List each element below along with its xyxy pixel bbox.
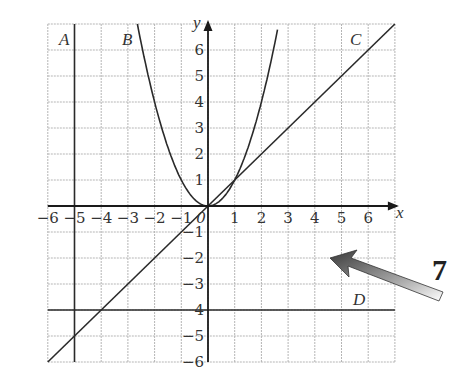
- x-tick-label: −4: [90, 209, 112, 227]
- plotted-lines: [48, 24, 395, 362]
- x-tick-label: 3: [283, 209, 293, 227]
- y-tick-label: −2: [182, 249, 204, 267]
- y-tick-label: −3: [182, 275, 204, 293]
- y-tick-label: −1: [182, 223, 204, 241]
- y-tick-label: 3: [194, 119, 204, 137]
- y-tick-label: 2: [194, 145, 204, 163]
- pointer-arrow-icon: [330, 250, 443, 301]
- label-line-a: A: [58, 30, 70, 49]
- y-tick-label: 1: [194, 171, 204, 189]
- y-tick-label: 4: [194, 93, 204, 111]
- x-tick-label: 1: [230, 209, 240, 227]
- label-line-c: C: [350, 30, 362, 49]
- y-axis-arrow-icon: [204, 20, 213, 31]
- y-tick-label: 4: [194, 301, 204, 319]
- series-c: [48, 24, 395, 362]
- y-tick-label: −5: [182, 327, 204, 345]
- y-axis-label: y: [191, 13, 201, 32]
- x-tick-label: −6: [37, 209, 59, 227]
- y-tick-label: −6: [182, 353, 204, 371]
- x-tick-label: −2: [144, 209, 166, 227]
- x-tick-label: 2: [257, 209, 267, 227]
- x-tick-label: −3: [117, 209, 139, 227]
- x-axis-label: x: [395, 203, 404, 222]
- x-tick-label: 6: [363, 209, 373, 227]
- x-tick-label: 4: [310, 209, 320, 227]
- x-tick-label: 5: [337, 209, 347, 227]
- x-tick-label: −5: [63, 209, 85, 227]
- question-number: 7: [432, 253, 447, 286]
- label-line-d: D: [352, 290, 366, 309]
- y-tick-label: 5: [194, 67, 204, 85]
- coordinate-graph: −6−5−4−3−2−10123456−6−54−3−2−1123456 A B…: [0, 0, 465, 386]
- label-curve-b: B: [122, 30, 133, 49]
- y-tick-label: 6: [194, 41, 204, 59]
